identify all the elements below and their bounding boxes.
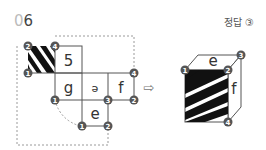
vertex-marker: 1 — [24, 69, 33, 78]
cube-vertex-marker: 4 — [224, 118, 233, 127]
vertex-marker: 3 — [104, 96, 113, 105]
net-face-label-a: ə — [92, 82, 99, 95]
vertex-marker: 4 — [51, 42, 60, 51]
vertex-marker-label: 1 — [53, 97, 58, 105]
vertex-marker-label: 1 — [80, 123, 85, 131]
right-arrow-icon: ⇨ — [144, 80, 155, 95]
vertex-marker: 1 — [51, 96, 60, 105]
vertex-marker: 2 — [130, 96, 139, 105]
cube: e f 1 2 3 4 — [181, 51, 246, 127]
cube-front-face — [185, 70, 228, 122]
net-face-label-e: e — [90, 105, 99, 123]
net-face-striped — [28, 46, 55, 73]
cube-top-label: e — [208, 52, 217, 70]
vertex-marker-label: 2 — [132, 97, 137, 105]
vertex-marker-label: 1 — [183, 67, 188, 75]
cube-side-label: f — [231, 80, 237, 98]
vertex-marker-label: 4 — [53, 43, 58, 51]
vertex-marker-label: 2 — [26, 43, 31, 51]
net-face-label-f: f — [118, 79, 124, 97]
cube-vertex-marker: 1 — [181, 66, 190, 75]
net-face-label-g: g — [64, 79, 74, 97]
vertex-marker-label: 2 — [106, 123, 111, 131]
diagram-canvas: 5 g ə f e 2 4 1 4 1 3 2 1 2 ⇨ — [0, 0, 266, 150]
cube-vertex-marker: 2 — [224, 66, 233, 75]
vertex-marker-label: 3 — [239, 52, 244, 60]
vertex-marker-label: 1 — [26, 70, 31, 78]
vertex-marker-label: 3 — [106, 97, 111, 105]
vertex-marker: 1 — [78, 122, 87, 131]
vertex-marker-label: 4 — [226, 119, 231, 127]
vertex-marker: 2 — [24, 42, 33, 51]
vertex-marker-label: 2 — [226, 67, 231, 75]
vertex-marker: 2 — [104, 122, 113, 131]
cube-vertex-marker: 3 — [237, 51, 246, 60]
vertex-marker: 4 — [130, 69, 139, 78]
vertex-marker-label: 4 — [132, 70, 137, 78]
net-face-label-5: 5 — [64, 52, 74, 70]
